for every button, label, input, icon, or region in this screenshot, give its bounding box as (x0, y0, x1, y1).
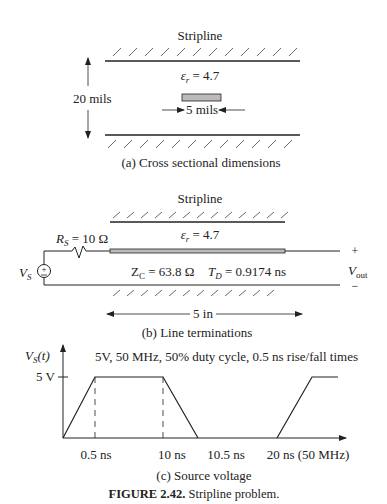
x-tick-10ns: 10 ns (158, 447, 186, 462)
width-label: 5 mils (186, 102, 218, 117)
vout-minus: − (352, 279, 359, 293)
zc-label: ZC = 63.8 Ω (131, 264, 194, 281)
vout-label: Vout (348, 263, 368, 280)
bottom-ground-hatch (108, 140, 292, 148)
x-tick-20ns: 20 ns (50 MHz) (267, 447, 350, 462)
panel-c-source-voltage: VS(t) 5V, 50 MHz, 50% duty cycle, 0.5 ns… (25, 345, 358, 483)
stripline-trace (110, 249, 285, 253)
panel-b-epsilon: εr = 4.7 (181, 227, 220, 244)
panel-a-title: Stripline (178, 28, 223, 43)
panel-b-terminations: Stripline εr = 4.7 RS = 10 Ω + VS ZC = 6… (19, 191, 368, 340)
source-resistor-wire (44, 246, 110, 265)
panel-b-caption: (b) Line terminations (142, 325, 252, 340)
top-ground-hatch (113, 48, 297, 56)
panel-b-title: Stripline (178, 191, 223, 206)
figure-caption: FIGURE 2.42. Stripline problem. (109, 487, 280, 501)
td-label: TD = 0.9174 ns (208, 264, 286, 281)
panel-a-caption: (a) Cross sectional dimensions (121, 155, 280, 170)
y-axis-label: VS(t) (25, 348, 50, 365)
height-label: 20 mils (73, 91, 112, 106)
vout-plus: + (352, 244, 359, 258)
panel-a-cross-section: Stripline εr = 4.7 5 mils 20 mils ( (73, 28, 300, 170)
panel-a-epsilon: εr = 4.7 (181, 68, 220, 85)
vs-label: VS (19, 265, 32, 282)
waveform-description: 5V, 50 MHz, 50% duty cycle, 0.5 ns rise/… (95, 349, 358, 364)
top-ground-hatch-b (113, 212, 288, 218)
x-tick-0-5ns: 0.5 ns (80, 447, 111, 462)
next-pulse-waveform (277, 377, 338, 438)
rs-label: RS = 10 Ω (55, 231, 108, 248)
source-plus: + (41, 264, 46, 274)
length-label: 5 in (193, 306, 213, 321)
signal-trace (182, 94, 221, 101)
panel-c-caption: (c) Source voltage (156, 468, 252, 483)
x-tick-10-5ns: 10.5 ns (207, 447, 245, 462)
y-tick-label: 5 V (36, 369, 56, 384)
pulse-waveform (63, 377, 198, 438)
bottom-ground-hatch-b (113, 290, 274, 296)
figure-canvas: Stripline εr = 4.7 5 mils 20 mils ( (0, 0, 387, 504)
